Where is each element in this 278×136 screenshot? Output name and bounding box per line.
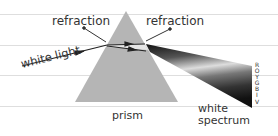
refraction-label-left: refraction — [52, 14, 110, 28]
prism-label: prism — [112, 109, 143, 122]
refraction-label-right: refraction — [146, 14, 204, 28]
white-light-label: white light — [19, 43, 82, 71]
prism-diagram: refraction refraction white light prism … — [0, 0, 278, 136]
white-spectrum-label-line2: spectrum — [198, 114, 250, 127]
spectrum-letters: R O Y G B I V — [254, 61, 260, 105]
svg-text:I: I — [256, 91, 258, 98]
svg-text:V: V — [255, 98, 260, 105]
